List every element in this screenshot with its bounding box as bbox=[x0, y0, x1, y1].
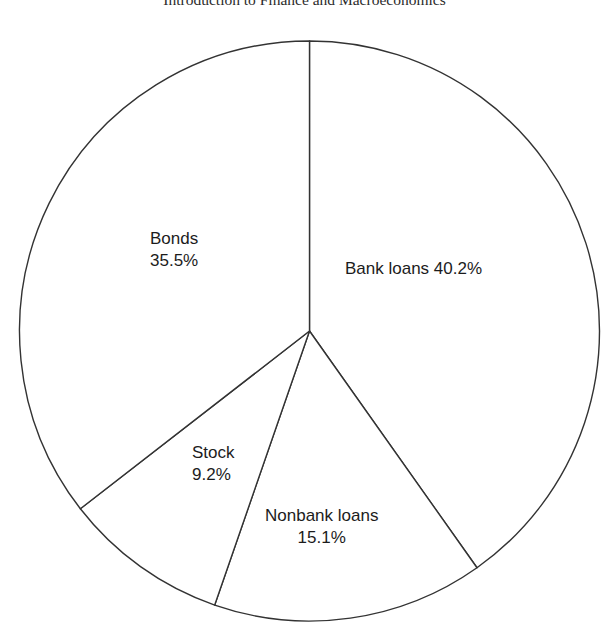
slice-label-bank-loans-text: Bank loans 40.2% bbox=[345, 259, 482, 278]
slice-label-bonds: Bonds 35.5% bbox=[150, 228, 198, 272]
slice-label-stock-value: 9.2% bbox=[192, 464, 235, 486]
slice-label-stock: Stock 9.2% bbox=[192, 442, 235, 486]
slice-label-bonds-value: 35.5% bbox=[150, 250, 198, 272]
slice-label-nonbank-loans-value: 15.1% bbox=[265, 527, 378, 549]
slice-label-nonbank-loans-name: Nonbank loans bbox=[265, 505, 378, 527]
pie-chart-figure: Bonds 35.5% Bank loans 40.2% Stock 9.2% … bbox=[0, 0, 609, 643]
slice-label-stock-name: Stock bbox=[192, 442, 235, 464]
slice-label-nonbank-loans: Nonbank loans 15.1% bbox=[265, 505, 378, 549]
slice-label-bank-loans: Bank loans 40.2% bbox=[345, 258, 482, 280]
slice-label-bonds-name: Bonds bbox=[150, 228, 198, 250]
